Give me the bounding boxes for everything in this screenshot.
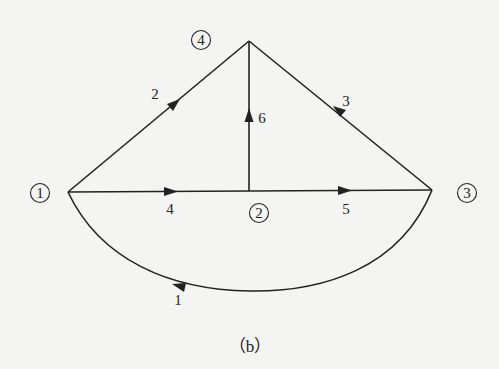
edge-6-arrowhead-icon [245,108,254,122]
edge-6-label: 6 [258,110,266,126]
graph-svg: 1 2 3 4 1 2 3 4 5 6 （b） [0,0,499,369]
directed-graph-figure: 1 2 3 4 1 2 3 4 5 6 （b） [0,0,499,369]
node-4-label: 4 [197,32,205,48]
edge-5-arrowhead-icon [338,186,352,195]
node-3: 3 [458,184,477,203]
edge-1 [68,190,432,291]
edge-4-arrowhead-icon [164,187,178,196]
node-2: 2 [250,204,269,223]
edge-2-arrowhead-icon [167,99,180,111]
figure-caption: （b） [229,337,272,356]
edge-1-arrowhead-icon [172,283,186,292]
edge-4-label: 4 [166,201,174,217]
node-3-label: 3 [463,185,471,201]
edge-1-label: 1 [174,292,182,308]
edge-2-label: 2 [151,86,159,102]
edge-2 [68,41,249,192]
edge-5-label: 5 [342,201,350,217]
edge-3-label: 3 [342,93,350,109]
node-2-label: 2 [255,205,263,221]
node-4: 4 [192,31,211,50]
edge-4 [68,191,250,192]
node-1: 1 [31,184,50,203]
node-1-label: 1 [36,185,44,201]
